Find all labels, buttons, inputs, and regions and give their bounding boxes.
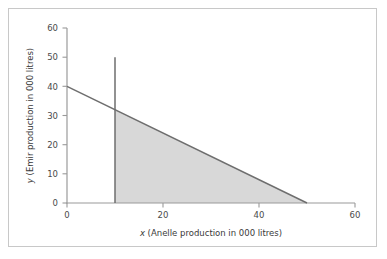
chart-figure: 0 10 20 30 40 50 60 0 20 40 60 x (Anelle… — [0, 0, 387, 259]
y-tick-label-30: 30 — [47, 111, 58, 121]
x-axis-tick-labels: 0 20 40 60 — [64, 210, 360, 220]
y-axis-tick-labels: 0 10 20 30 40 50 60 — [47, 23, 58, 208]
y-tick-label-20: 20 — [47, 140, 58, 150]
y-tick-label-50: 50 — [47, 52, 58, 62]
plot-canvas: 0 10 20 30 40 50 60 0 20 40 60 x (Anelle… — [0, 0, 387, 259]
x-tick-label-60: 60 — [350, 210, 361, 220]
x-tick-label-0: 0 — [64, 210, 69, 220]
x-axis-ticks — [67, 203, 355, 208]
y-tick-label-0: 0 — [53, 198, 58, 208]
y-tick-label-60: 60 — [47, 23, 58, 33]
y-axis-title-text: (Emir production in 000 litres) — [25, 48, 35, 178]
x-axis-title-text: (Anelle production in 000 litres) — [145, 228, 282, 238]
y-tick-label-40: 40 — [47, 82, 58, 92]
x-tick-label-40: 40 — [254, 210, 265, 220]
y-axis-title: y (Emir production in 000 litres) — [25, 48, 35, 184]
x-axis-title: x (Anelle production in 000 litres) — [139, 228, 282, 238]
y-tick-label-10: 10 — [47, 169, 58, 179]
x-tick-label-20: 20 — [158, 210, 169, 220]
y-axis-ticks — [63, 28, 68, 203]
